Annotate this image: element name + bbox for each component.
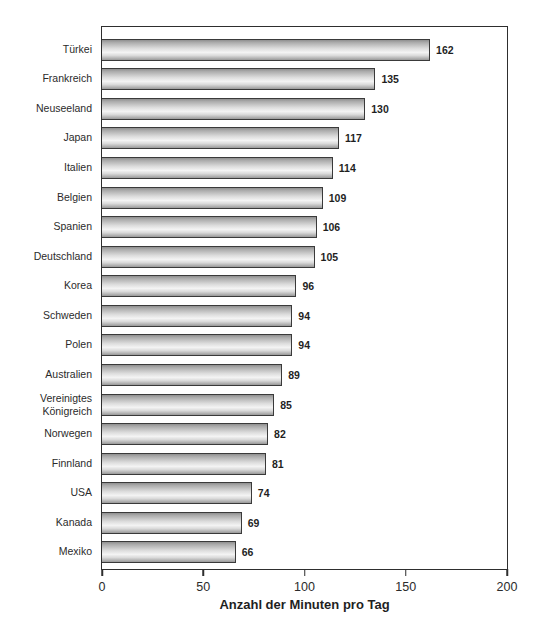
category-label: Australien bbox=[28, 368, 92, 381]
bar bbox=[102, 98, 365, 120]
category-label: Polen bbox=[28, 339, 92, 352]
value-label: 74 bbox=[258, 487, 270, 499]
bar bbox=[102, 187, 323, 209]
bar-row: Polen94 bbox=[102, 331, 507, 361]
bar-row: Finnland81 bbox=[102, 449, 507, 479]
x-axis-tick-label: 0 bbox=[99, 580, 106, 594]
bar-chart: Türkei162Frankreich135Neuseeland130Japan… bbox=[0, 0, 538, 644]
plot-area: Türkei162Frankreich135Neuseeland130Japan… bbox=[101, 26, 508, 570]
x-axis-tick bbox=[203, 569, 205, 576]
value-label: 82 bbox=[274, 428, 286, 440]
category-label: Belgien bbox=[28, 191, 92, 204]
bar bbox=[102, 305, 292, 327]
category-label: Mexiko bbox=[28, 546, 92, 559]
category-label: Spanien bbox=[28, 221, 92, 234]
value-label: 94 bbox=[298, 310, 310, 322]
x-axis-tick bbox=[101, 569, 103, 576]
bar-rows: Türkei162Frankreich135Neuseeland130Japan… bbox=[102, 27, 507, 569]
bar bbox=[102, 541, 236, 563]
value-label: 135 bbox=[381, 73, 399, 85]
bar-row: Türkei162 bbox=[102, 35, 507, 65]
value-label: 109 bbox=[329, 192, 347, 204]
bar bbox=[102, 453, 266, 475]
value-label: 130 bbox=[371, 103, 389, 115]
bar-row: Norwegen82 bbox=[102, 419, 507, 449]
bar-row: Neuseeland130 bbox=[102, 94, 507, 124]
bar bbox=[102, 216, 317, 238]
category-label: USA bbox=[28, 487, 92, 500]
value-label: 117 bbox=[345, 132, 362, 144]
value-label: 66 bbox=[242, 546, 254, 558]
category-label: Finnland bbox=[28, 457, 92, 470]
bar-row: Frankreich135 bbox=[102, 65, 507, 95]
category-label: Türkei bbox=[28, 43, 92, 56]
x-axis-tick-label: 200 bbox=[497, 580, 518, 594]
bar bbox=[102, 394, 274, 416]
bar bbox=[102, 246, 315, 268]
category-label: Norwegen bbox=[28, 428, 92, 441]
bar bbox=[102, 39, 430, 61]
bar bbox=[102, 68, 375, 90]
bar-row: Belgien109 bbox=[102, 183, 507, 213]
bar-row: Japan117 bbox=[102, 124, 507, 154]
value-label: 162 bbox=[436, 44, 454, 56]
bar-row: Australien89 bbox=[102, 360, 507, 390]
category-label: Italien bbox=[28, 161, 92, 174]
value-label: 89 bbox=[288, 369, 300, 381]
bar-row: Italien114 bbox=[102, 153, 507, 183]
x-axis-tick bbox=[506, 569, 508, 576]
bar bbox=[102, 334, 292, 356]
x-axis-title: Anzahl der Minuten pro Tag bbox=[102, 597, 507, 612]
x-axis-tick bbox=[304, 569, 306, 576]
value-label: 85 bbox=[280, 399, 292, 411]
category-label: Neuseeland bbox=[28, 102, 92, 115]
bar bbox=[102, 512, 242, 534]
category-label: Frankreich bbox=[28, 73, 92, 86]
category-label: Japan bbox=[28, 132, 92, 145]
category-label: Kanada bbox=[28, 516, 92, 529]
bar bbox=[102, 482, 252, 504]
value-label: 96 bbox=[302, 280, 314, 292]
bar-row: Schweden94 bbox=[102, 301, 507, 331]
value-label: 69 bbox=[248, 517, 260, 529]
bar-row: Kanada69 bbox=[102, 508, 507, 538]
value-label: 105 bbox=[321, 251, 339, 263]
x-axis-tick-label: 100 bbox=[294, 580, 315, 594]
bar-row: Deutschland105 bbox=[102, 242, 507, 272]
x-axis-tick-label: 150 bbox=[395, 580, 416, 594]
category-label: Korea bbox=[28, 280, 92, 293]
bar bbox=[102, 275, 296, 297]
category-label: Deutschland bbox=[28, 250, 92, 263]
value-label: 114 bbox=[339, 162, 356, 174]
value-label: 81 bbox=[272, 458, 284, 470]
category-label: Vereinigtes Königreich bbox=[28, 391, 92, 417]
category-label: Schweden bbox=[28, 309, 92, 322]
bar-row: Mexiko66 bbox=[102, 538, 507, 568]
value-label: 94 bbox=[298, 339, 310, 351]
x-axis-tick bbox=[405, 569, 407, 576]
bar-row: Korea96 bbox=[102, 272, 507, 302]
bar-row: Spanien106 bbox=[102, 212, 507, 242]
bar-row: Vereinigtes Königreich85 bbox=[102, 390, 507, 420]
x-axis-tick-label: 50 bbox=[196, 580, 210, 594]
value-label: 106 bbox=[323, 221, 341, 233]
bar bbox=[102, 127, 339, 149]
bar bbox=[102, 423, 268, 445]
bar bbox=[102, 364, 282, 386]
bar-row: USA74 bbox=[102, 478, 507, 508]
bar bbox=[102, 157, 333, 179]
